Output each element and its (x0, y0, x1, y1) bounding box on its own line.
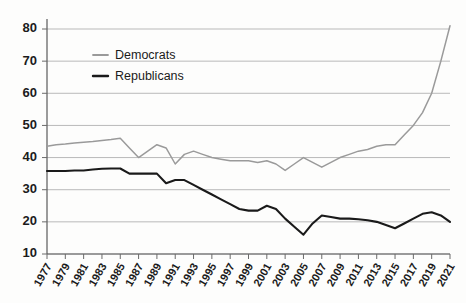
legend-label-republicans: Republicans (115, 69, 184, 83)
y-tick-label-30: 30 (23, 181, 37, 196)
x-tick-label-1983: 1983 (86, 261, 109, 288)
x-tick-label-2001: 2001 (251, 261, 274, 288)
y-axis-tick-labels: 1020304050607080 (23, 20, 47, 260)
y-tick-label-80: 80 (23, 20, 37, 35)
y-tick-label-70: 70 (23, 53, 37, 68)
x-tick-label-1991: 1991 (159, 261, 182, 288)
x-tick-label-2007: 2007 (306, 261, 329, 288)
chart-legend: DemocratsRepublicans (93, 48, 184, 83)
legend-label-democrats: Democrats (115, 48, 175, 62)
party-identification-line-chart: 1020304050607080 19771979198119831985198… (0, 0, 466, 303)
x-tick-label-1989: 1989 (141, 261, 164, 288)
x-tick-label-2021: 2021 (434, 261, 457, 288)
x-tick-label-1979: 1979 (49, 261, 72, 288)
x-tick-label-1999: 1999 (233, 261, 256, 288)
x-tick-label-2005: 2005 (288, 261, 311, 288)
x-tick-label-2019: 2019 (416, 261, 439, 288)
x-tick-label-1995: 1995 (196, 261, 219, 288)
series-line-democrats (47, 26, 450, 171)
x-tick-label-2003: 2003 (269, 261, 292, 288)
x-tick-label-1987: 1987 (123, 261, 146, 288)
x-tick-label-2009: 2009 (324, 261, 347, 288)
y-tick-label-60: 60 (23, 85, 37, 100)
x-axis-tick-labels: 1977197919811983198519871989199119931995… (31, 254, 457, 288)
x-tick-label-1985: 1985 (104, 261, 127, 288)
x-tick-label-2013: 2013 (361, 261, 384, 288)
data-series-group (47, 26, 450, 235)
y-tick-label-40: 40 (23, 149, 37, 164)
x-tick-label-1993: 1993 (178, 261, 201, 288)
y-tick-label-20: 20 (23, 213, 37, 228)
y-tick-label-50: 50 (23, 117, 37, 132)
grid-lines (47, 29, 450, 254)
x-tick-label-1977: 1977 (31, 261, 54, 288)
series-line-republicans (47, 169, 450, 235)
y-tick-label-10: 10 (23, 245, 37, 260)
line-chart-container: 1020304050607080 19771979198119831985198… (0, 0, 466, 303)
x-tick-label-2017: 2017 (397, 261, 420, 288)
x-tick-label-1981: 1981 (68, 261, 91, 288)
x-tick-label-2015: 2015 (379, 261, 402, 288)
x-tick-label-1997: 1997 (214, 261, 237, 288)
